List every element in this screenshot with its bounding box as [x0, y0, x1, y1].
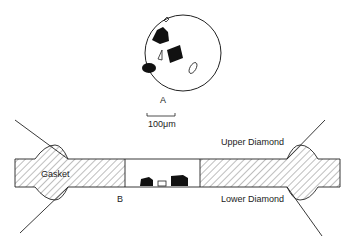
- gasket-label: Gasket: [41, 169, 70, 179]
- lower-diamond-label: Lower Diamond: [221, 194, 284, 204]
- panel-a-label: A: [160, 95, 166, 105]
- panel-b-label: B: [117, 194, 123, 204]
- ruby-chip-3: [158, 50, 162, 60]
- gasket-right: [200, 145, 340, 200]
- panel-a-top-view: A: [142, 15, 221, 105]
- ruby-chip-2: [187, 61, 198, 74]
- sample-fragment-1: [152, 27, 169, 44]
- sample-fragment-2: [167, 45, 183, 63]
- gasket-left: [15, 145, 125, 200]
- scale-bar-label: 100μm: [148, 119, 176, 129]
- scale-bar: 100μm: [147, 113, 176, 129]
- diamond-anvil-cell-diagram: A 100μm Gasket Upper Diamond Lower Diamo…: [0, 0, 354, 249]
- sample-in-chamber-1: [140, 177, 153, 186]
- ruby-in-chamber: [158, 181, 166, 186]
- sample-chamber-circle: [145, 15, 221, 91]
- upper-diamond-label: Upper Diamond: [221, 137, 284, 147]
- sample-in-chamber-2: [171, 175, 188, 186]
- sample-fragment-3: [142, 63, 156, 73]
- panel-b-cross-section: Gasket Upper Diamond Lower Diamond B: [15, 120, 340, 236]
- ruby-chip-1: [164, 17, 169, 22]
